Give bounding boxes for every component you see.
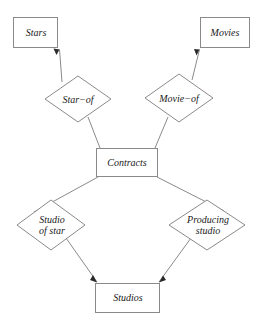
entity-contracts[interactable] — [97, 149, 158, 177]
entity-shapes — [14, 18, 250, 313]
er-diagram: Stars Movies Contracts Studios Star−of M… — [0, 0, 263, 326]
edge-movie-of-to-contracts — [155, 117, 168, 148]
edge-studio-of-star-to-studios — [66, 238, 97, 282]
arrowhead-studios-right-icon — [159, 276, 166, 283]
entity-stars[interactable] — [14, 18, 58, 48]
arrowhead-stars-icon — [54, 49, 60, 56]
relationship-studio-of-star[interactable] — [17, 200, 85, 250]
relationship-movie-of[interactable] — [145, 74, 213, 122]
entity-movies[interactable] — [201, 18, 250, 48]
entity-studios[interactable] — [96, 284, 160, 313]
edge-star-of-to-contracts — [88, 117, 100, 148]
edge-producing-studio-to-studios — [159, 238, 191, 282]
edge-movie-of-to-movies — [192, 50, 200, 81]
edge-star-of-to-stars — [60, 50, 63, 83]
er-diagram-canvas — [0, 0, 263, 326]
relationship-producing-studio[interactable] — [169, 200, 245, 250]
relationship-star-of[interactable] — [45, 76, 111, 122]
arrowhead-studios-left-icon — [90, 275, 97, 283]
